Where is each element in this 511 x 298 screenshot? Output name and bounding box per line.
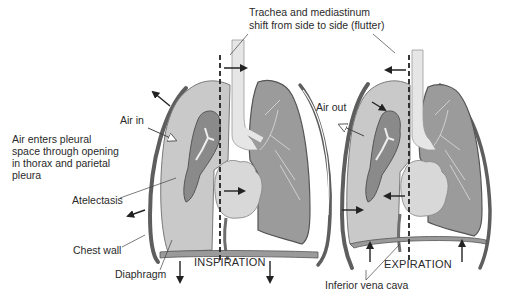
trachea-leader-exp [373,34,395,53]
chest-wall-label: Chest wall [73,244,121,256]
normal-lung [249,81,310,244]
inferior-vena-cava-label: Inferior vena cava [325,279,408,291]
heart-exp [401,160,448,216]
inferior-vena-cava-exp [399,214,401,252]
heart [215,160,262,218]
expiration-panel [340,50,490,268]
air-enters-label: Air enters pleural space through opening… [12,133,120,181]
inspiration-caption: INSPIRATION [194,256,266,268]
chest-wall-arrow-out [153,92,170,106]
chest-wall-leader [122,235,145,247]
air-in-label: Air in [120,114,144,126]
flutter-label: shift from side to side (flutter) [249,19,384,31]
atelectasis-label: Atelectasis [72,194,123,206]
expiration-caption: EXPIRATION [384,258,452,270]
air-out-label: Air out [316,101,346,113]
inspiration-panel [128,40,330,282]
atelectasis-chest-arrow [128,210,145,216]
diaphragm-label: Diaphragm [115,268,166,280]
trachea-label: Trachea and mediastinum [249,6,370,18]
